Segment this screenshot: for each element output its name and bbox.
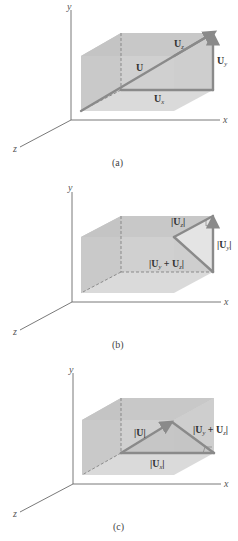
caption-a: (a)	[112, 157, 123, 169]
caption-c: (c)	[113, 521, 124, 533]
x-axis-label: x	[222, 114, 228, 125]
panel-b: y x z |Uz| |Uy| |Uy + Uz| (b)	[12, 182, 232, 351]
x-axis-label: x	[223, 296, 229, 307]
vector-components-figure: y x z U Ux Uy Uz (a) y x z |Uz| |Uy| |Uy…	[0, 0, 238, 541]
label-uy-plus-uz-mag: |Uy + Uz|	[149, 258, 184, 270]
label-u: U	[136, 62, 143, 73]
panel-c: y x z |U| |Ux| |Uy + Uz| (c)	[12, 364, 229, 533]
label-uy-plus-uz-mag: |Uy + Uz|	[193, 424, 228, 436]
y-axis-label: y	[67, 182, 73, 193]
x-axis-label: x	[223, 478, 229, 489]
z-axis	[20, 120, 71, 147]
y-axis-label: y	[66, 1, 72, 12]
caption-b: (b)	[112, 339, 124, 351]
y-axis-label: y	[68, 364, 74, 375]
panel-a: y x z U Ux Uy Uz (a)	[12, 1, 228, 169]
z-axis-label: z	[12, 143, 17, 154]
label-uy-mag: |Uy|	[217, 239, 232, 251]
label-uz-mag: |Uz|	[171, 216, 185, 228]
label-u-mag: |U|	[134, 427, 146, 438]
label-uy: Uy	[217, 55, 227, 67]
z-axis-label: z	[12, 326, 17, 337]
z-axis-label: z	[12, 508, 17, 519]
label-ux-mag: |Ux|	[150, 458, 165, 470]
